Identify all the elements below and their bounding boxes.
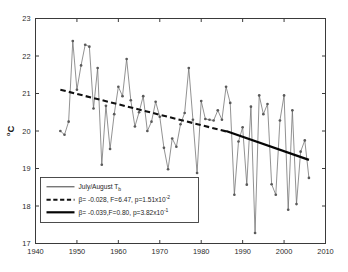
data-point-marker xyxy=(295,203,298,206)
legend-label-2: β= -0.028, F=6.47, p=1.51x10-2 xyxy=(79,194,171,204)
data-point-marker xyxy=(221,118,224,121)
data-point-marker xyxy=(283,94,286,97)
data-point-marker xyxy=(146,130,149,133)
data-point-marker xyxy=(163,147,166,150)
data-point-marker xyxy=(291,109,294,112)
y-tick-label: 19 xyxy=(22,164,30,173)
data-point-marker xyxy=(63,133,66,136)
data-point-marker xyxy=(237,140,240,143)
data-point-marker xyxy=(113,113,116,116)
data-point-marker xyxy=(270,183,273,186)
data-point-marker xyxy=(258,94,261,97)
legend-label-3: β= -0.039,F=0.80, p=3.82x10-1 xyxy=(79,207,169,217)
data-point-marker xyxy=(183,112,186,115)
y-tick-label: 23 xyxy=(22,14,30,23)
data-point-marker xyxy=(100,163,103,166)
data-point-marker xyxy=(134,125,137,128)
x-tick-label: 1980 xyxy=(193,247,209,256)
data-point-marker xyxy=(279,119,282,122)
data-point-marker xyxy=(92,107,95,110)
temperature-trend-chart: 17181920212223 1940195019601970198019902… xyxy=(0,0,348,272)
x-tick-label: 1970 xyxy=(152,247,168,256)
data-point-marker xyxy=(266,103,269,106)
data-point-marker xyxy=(154,100,157,103)
data-point-marker xyxy=(241,126,244,129)
data-point-marker xyxy=(225,85,228,88)
data-point-marker xyxy=(125,58,128,61)
data-point-marker xyxy=(250,105,253,108)
data-point-marker xyxy=(96,67,99,70)
data-point-marker xyxy=(175,145,178,148)
data-point-marker xyxy=(167,168,170,171)
x-tick-label: 1960 xyxy=(110,247,126,256)
data-point-marker xyxy=(171,137,174,140)
data-point-marker xyxy=(59,130,62,133)
x-tick-label: 1950 xyxy=(69,247,85,256)
x-tick-label: 2000 xyxy=(276,247,292,256)
chart-legend: July/August Tbβ= -0.028, F=6.47, p=1.51x… xyxy=(41,178,199,223)
data-point-marker xyxy=(138,111,141,114)
data-point-marker xyxy=(117,85,120,88)
data-point-marker xyxy=(187,67,190,70)
y-tick-label: 22 xyxy=(22,52,30,61)
chart-figure: 17181920212223 1940195019601970198019902… xyxy=(0,0,348,272)
x-tick-label: 1990 xyxy=(234,247,250,256)
data-point-marker xyxy=(303,139,306,142)
data-point-marker xyxy=(179,123,182,126)
data-point-marker xyxy=(142,95,145,98)
y-tick-label: 21 xyxy=(22,89,30,98)
data-point-marker xyxy=(308,177,311,180)
y-tick-label: 20 xyxy=(22,127,30,136)
data-point-marker xyxy=(200,100,203,103)
data-point-marker xyxy=(287,208,290,211)
data-point-marker xyxy=(158,115,161,118)
data-point-marker xyxy=(121,95,124,98)
data-point-marker xyxy=(84,43,87,46)
data-point-marker xyxy=(204,118,207,121)
data-point-marker xyxy=(299,150,302,153)
data-point-marker xyxy=(67,120,70,123)
data-point-marker xyxy=(216,109,219,112)
y-tick-label: 18 xyxy=(22,202,30,211)
data-point-marker xyxy=(196,172,199,175)
data-point-marker xyxy=(274,193,277,196)
y-axis-label-text: oC xyxy=(5,126,16,137)
x-tick-label: 1940 xyxy=(27,247,43,256)
data-point-marker xyxy=(212,119,215,122)
data-point-marker xyxy=(88,45,91,48)
data-point-marker xyxy=(208,118,211,121)
data-point-marker xyxy=(262,113,265,116)
data-point-marker xyxy=(245,183,248,186)
data-point-marker xyxy=(192,118,195,121)
data-point-marker xyxy=(129,99,132,102)
y-axis-label: oC xyxy=(5,126,16,137)
data-point-marker xyxy=(105,105,108,108)
data-point-marker xyxy=(229,102,232,105)
data-point-marker xyxy=(76,88,79,91)
x-tick-label: 2010 xyxy=(317,247,333,256)
data-point-marker xyxy=(254,232,257,235)
data-point-marker xyxy=(109,148,112,151)
data-point-marker xyxy=(233,193,236,196)
data-point-marker xyxy=(150,120,153,123)
data-point-marker xyxy=(80,64,83,67)
data-point-marker xyxy=(71,40,74,43)
